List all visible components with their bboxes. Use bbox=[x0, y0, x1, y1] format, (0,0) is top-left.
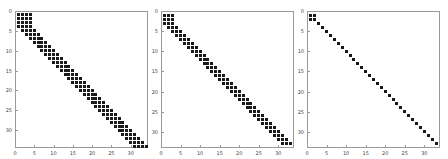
nonzero-marker bbox=[210, 70, 213, 73]
nonzero-marker bbox=[214, 70, 217, 73]
y-tick bbox=[162, 92, 164, 93]
nonzero-marker bbox=[269, 130, 272, 133]
y-tick-label: 20 bbox=[148, 89, 158, 94]
nonzero-marker bbox=[171, 30, 174, 33]
nonzero-marker bbox=[313, 14, 316, 17]
nonzero-marker bbox=[423, 130, 426, 133]
y-tick-label: 15 bbox=[148, 69, 158, 74]
x-tick bbox=[327, 145, 328, 147]
x-tick bbox=[220, 145, 221, 147]
nonzero-marker bbox=[226, 86, 229, 89]
nonzero-marker bbox=[253, 106, 256, 109]
y-tick-label: 30 bbox=[148, 129, 158, 134]
x-tick-label: 25 bbox=[402, 151, 408, 156]
nonzero-marker bbox=[167, 18, 170, 21]
nonzero-marker bbox=[399, 106, 402, 109]
nonzero-marker bbox=[246, 102, 249, 105]
nonzero-marker bbox=[206, 66, 209, 69]
y-tick bbox=[162, 11, 164, 12]
y-tick bbox=[308, 51, 310, 52]
nonzero-marker bbox=[242, 102, 245, 105]
nonzero-marker bbox=[214, 66, 217, 69]
nonzero-marker bbox=[261, 114, 264, 117]
nonzero-marker bbox=[195, 54, 198, 57]
nonzero-marker bbox=[249, 102, 252, 105]
nonzero-marker bbox=[285, 142, 288, 145]
x-tick bbox=[366, 145, 367, 147]
nonzero-marker bbox=[230, 90, 233, 93]
x-tick bbox=[239, 145, 240, 147]
nonzero-marker bbox=[388, 94, 391, 97]
nonzero-marker bbox=[427, 134, 430, 137]
nonzero-marker bbox=[242, 94, 245, 97]
nonzero-marker bbox=[384, 90, 387, 93]
nonzero-marker bbox=[345, 50, 348, 53]
nonzero-marker bbox=[234, 90, 237, 93]
nonzero-marker bbox=[249, 106, 252, 109]
y-tick bbox=[308, 11, 310, 12]
nonzero-marker bbox=[337, 42, 340, 45]
nonzero-marker bbox=[368, 74, 371, 77]
nonzero-marker bbox=[183, 38, 186, 41]
nonzero-marker bbox=[356, 62, 359, 65]
nonzero-marker bbox=[265, 122, 268, 125]
nonzero-marker bbox=[265, 118, 268, 121]
y-tick-label: 0 bbox=[294, 9, 304, 14]
x-tick bbox=[200, 145, 201, 147]
nonzero-marker bbox=[419, 126, 422, 129]
x-tick bbox=[385, 145, 386, 147]
nonzero-marker bbox=[210, 62, 213, 65]
nonzero-marker bbox=[281, 138, 284, 141]
nonzero-marker bbox=[257, 110, 260, 113]
nonzero-marker bbox=[218, 74, 221, 77]
x-tick-label: 0 bbox=[305, 151, 308, 156]
nonzero-marker bbox=[277, 138, 280, 141]
nonzero-marker bbox=[167, 26, 170, 29]
y-tick bbox=[308, 132, 310, 133]
nonzero-marker bbox=[277, 134, 280, 137]
nonzero-marker bbox=[257, 118, 260, 121]
nonzero-marker bbox=[179, 30, 182, 33]
nonzero-marker bbox=[376, 82, 379, 85]
nonzero-marker bbox=[206, 58, 209, 61]
y-tick bbox=[162, 71, 164, 72]
nonzero-marker bbox=[163, 18, 166, 21]
nonzero-marker bbox=[171, 26, 174, 29]
x-tick-label: 15 bbox=[362, 151, 368, 156]
nonzero-marker bbox=[226, 78, 229, 81]
y-tick-label: 30 bbox=[294, 129, 304, 134]
x-tick-label: 5 bbox=[179, 151, 182, 156]
x-tick bbox=[161, 145, 162, 147]
nonzero-marker bbox=[187, 38, 190, 41]
nonzero-marker bbox=[171, 22, 174, 25]
nonzero-marker bbox=[246, 98, 249, 101]
nonzero-marker bbox=[234, 94, 237, 97]
y-tick-label: 25 bbox=[294, 109, 304, 114]
nonzero-marker bbox=[253, 110, 256, 113]
nonzero-marker bbox=[218, 70, 221, 73]
nonzero-marker bbox=[341, 46, 344, 49]
nonzero-marker bbox=[273, 134, 276, 137]
nonzero-marker bbox=[226, 82, 229, 85]
y-tick bbox=[162, 51, 164, 52]
x-tick bbox=[181, 145, 182, 147]
nonzero-marker bbox=[253, 114, 256, 117]
nonzero-marker bbox=[222, 82, 225, 85]
nonzero-marker bbox=[199, 54, 202, 57]
nonzero-marker bbox=[317, 22, 320, 25]
nonzero-marker bbox=[175, 30, 178, 33]
nonzero-marker bbox=[364, 70, 367, 73]
nonzero-marker bbox=[242, 98, 245, 101]
nonzero-marker bbox=[309, 18, 312, 21]
nonzero-marker bbox=[218, 78, 221, 81]
y-tick bbox=[162, 132, 164, 133]
nonzero-marker bbox=[195, 46, 198, 49]
spy-plot-3: 051015202530051015202530 bbox=[0, 0, 149, 159]
nonzero-marker bbox=[329, 34, 332, 37]
nonzero-marker bbox=[407, 114, 410, 117]
y-tick bbox=[308, 92, 310, 93]
x-tick bbox=[405, 145, 406, 147]
y-tick-label: 5 bbox=[294, 29, 304, 34]
nonzero-marker bbox=[277, 130, 280, 133]
y-tick bbox=[308, 31, 310, 32]
